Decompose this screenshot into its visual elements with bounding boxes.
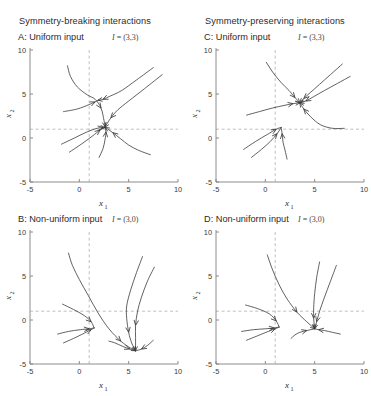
- panel-a: A: Uniform input I = (3,3) -505101050-5x…: [0, 32, 186, 214]
- panel-a-input: I = (3,3): [112, 33, 139, 42]
- panel-d-plot: -505101050-5x1x2: [186, 224, 371, 394]
- panel-b-input-rhs: (3,0): [123, 215, 138, 224]
- svg-text:0: 0: [22, 134, 26, 143]
- svg-text:x: x: [98, 198, 103, 208]
- svg-text:1: 1: [290, 203, 293, 210]
- svg-text:-5: -5: [213, 367, 220, 376]
- svg-text:1: 1: [104, 385, 107, 392]
- panel-a-input-rhs: (3,3): [123, 33, 138, 42]
- column-header-left: Symmetry-breaking interactions: [19, 16, 151, 26]
- svg-text:2: 2: [194, 109, 201, 112]
- svg-text:5: 5: [127, 185, 131, 194]
- svg-text:x: x: [98, 380, 103, 390]
- svg-text:-5: -5: [19, 360, 26, 369]
- svg-text:-5: -5: [27, 185, 34, 194]
- svg-text:x: x: [284, 380, 289, 390]
- figure-root: Symmetry-breaking interactions Symmetry-…: [0, 0, 371, 396]
- svg-text:x: x: [284, 198, 289, 208]
- panel-d-title: D: Non-uniform input: [204, 214, 289, 224]
- panel-c-title: C: Uniform input: [204, 32, 270, 42]
- svg-text:5: 5: [208, 272, 212, 281]
- panel-d-input: I = (3,0): [298, 215, 325, 224]
- svg-text:0: 0: [208, 316, 212, 325]
- panel-a-input-eq: =: [115, 33, 124, 42]
- panel-c-input: I = (3,3): [298, 33, 325, 42]
- svg-text:10: 10: [174, 185, 182, 194]
- panel-c-input-rhs: (3,3): [309, 33, 324, 42]
- svg-text:-5: -5: [213, 185, 220, 194]
- panel-c-plot: -505101050-5x1x2: [186, 42, 371, 212]
- panel-b: B: Non-uniform input I = (3,0) -50510105…: [0, 214, 186, 396]
- svg-text:x: x: [3, 114, 13, 119]
- svg-text:10: 10: [360, 367, 368, 376]
- panel-b-title: B: Non-uniform input: [18, 214, 102, 224]
- panel-b-input-eq: =: [115, 215, 124, 224]
- svg-text:5: 5: [22, 272, 26, 281]
- svg-text:1: 1: [290, 385, 293, 392]
- svg-text:10: 10: [360, 185, 368, 194]
- panel-d-input-rhs: (3,0): [309, 215, 324, 224]
- svg-text:5: 5: [22, 90, 26, 99]
- svg-text:10: 10: [174, 367, 182, 376]
- svg-text:1: 1: [104, 203, 107, 210]
- svg-text:0: 0: [208, 134, 212, 143]
- svg-text:2: 2: [8, 291, 15, 294]
- svg-text:-5: -5: [205, 178, 212, 187]
- svg-text:-5: -5: [27, 367, 34, 376]
- panel-a-plot: -505101050-5x1x2: [0, 42, 186, 212]
- panel-a-title: A: Uniform input: [18, 32, 84, 42]
- column-header-right: Symmetry-preserving interactions: [205, 16, 345, 26]
- svg-text:5: 5: [313, 185, 317, 194]
- svg-text:x: x: [189, 114, 199, 119]
- svg-text:0: 0: [22, 316, 26, 325]
- svg-text:x: x: [3, 296, 13, 301]
- panel-b-plot: -505101050-5x1x2: [0, 224, 186, 394]
- svg-text:2: 2: [194, 291, 201, 294]
- panel-d: D: Non-uniform input I = (3,0) -50510105…: [186, 214, 371, 396]
- svg-text:0: 0: [263, 185, 267, 194]
- svg-text:10: 10: [18, 46, 26, 55]
- svg-text:-5: -5: [205, 360, 212, 369]
- svg-text:10: 10: [18, 228, 26, 237]
- svg-text:0: 0: [77, 185, 81, 194]
- svg-text:-5: -5: [19, 178, 26, 187]
- panel-b-input: I = (3,0): [112, 215, 139, 224]
- panel-c: C: Uniform input I = (3,3) -505101050-5x…: [186, 32, 371, 214]
- panel-c-input-eq: =: [301, 33, 310, 42]
- svg-text:10: 10: [204, 46, 212, 55]
- svg-text:5: 5: [313, 367, 317, 376]
- svg-text:5: 5: [127, 367, 131, 376]
- svg-text:x: x: [189, 296, 199, 301]
- svg-text:0: 0: [263, 367, 267, 376]
- svg-text:10: 10: [204, 228, 212, 237]
- svg-text:5: 5: [208, 90, 212, 99]
- svg-text:0: 0: [77, 367, 81, 376]
- svg-text:2: 2: [8, 109, 15, 112]
- panel-d-input-eq: =: [301, 215, 310, 224]
